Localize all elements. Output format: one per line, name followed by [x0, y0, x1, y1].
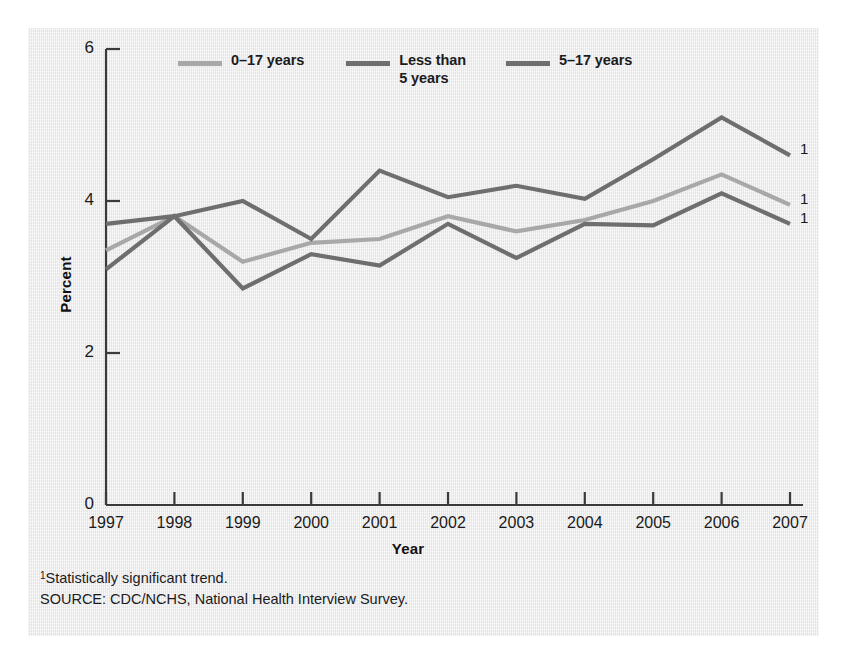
x-tick-label: 1999 [215, 514, 271, 532]
x-tick-label: 2000 [283, 514, 339, 532]
legend-swatch-0-17-years [178, 61, 222, 66]
x-tick-label: 2001 [352, 514, 408, 532]
footnote-text: Statistically significant trend. [46, 570, 228, 586]
legend-item-5-17-years[interactable]: 5–17 years [506, 52, 632, 70]
x-tick-label: 2004 [557, 514, 613, 532]
x-tick-label: 1997 [78, 514, 134, 532]
y-axis-title: Percent [57, 230, 74, 340]
series-end-marker: 1 [800, 140, 808, 157]
chart-figure: 0–17 years Less than 5 years 5–17 years … [28, 28, 819, 636]
footnote-line: 1Statistically significant trend. [40, 568, 408, 589]
x-tick-label: 2007 [762, 514, 818, 532]
legend-swatch-5-17-years [506, 61, 550, 66]
x-tick-label: 2002 [420, 514, 476, 532]
y-tick-label: 0 [60, 494, 94, 514]
chart-legend: 0–17 years Less than 5 years 5–17 years [178, 52, 632, 104]
y-tick-label: 6 [60, 38, 94, 58]
series-end-marker: 1 [800, 209, 808, 226]
x-tick-label: 2003 [488, 514, 544, 532]
x-tick-label: 2006 [694, 514, 750, 532]
legend-swatch-less-than-5-years [346, 61, 390, 66]
legend-label-less-than-5-years: Less than 5 years [399, 52, 466, 88]
x-tick-label: 2005 [625, 514, 681, 532]
x-tick-label: 1998 [146, 514, 202, 532]
series-line [106, 174, 790, 261]
series-line [106, 117, 790, 239]
y-tick-label: 2 [60, 342, 94, 362]
legend-label-5-17-years: 5–17 years [559, 52, 632, 70]
series-end-marker: 1 [800, 190, 808, 207]
legend-label-0-17-years: 0–17 years [231, 52, 304, 70]
legend-item-0-17-years[interactable]: 0–17 years [178, 52, 304, 70]
source-line: SOURCE: CDC/NCHS, National Health Interv… [40, 589, 408, 610]
x-axis-title: Year [28, 540, 788, 557]
legend-item-less-than-5-years[interactable]: Less than 5 years [346, 52, 466, 88]
footnotes: 1Statistically significant trend. SOURCE… [40, 568, 408, 609]
y-tick-label: 4 [60, 190, 94, 210]
